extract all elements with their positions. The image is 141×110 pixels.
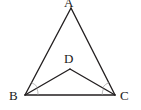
angle-dbc-arc	[37, 89, 38, 95]
angle-abd-arc	[32, 83, 38, 87]
vertex-label-d: D	[64, 52, 73, 65]
vertex-label-c: C	[120, 89, 129, 102]
angle-dcb-arc	[102, 89, 103, 95]
geometry-figure: A B C D	[0, 0, 141, 110]
vertex-label-a: A	[64, 0, 73, 9]
vertex-label-b: B	[9, 89, 18, 102]
angle-acd-arc	[103, 83, 109, 88]
inner-triangle-dbc	[25, 69, 115, 95]
